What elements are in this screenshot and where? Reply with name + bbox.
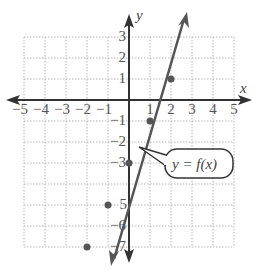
x-tick: 1: [146, 101, 154, 117]
y-tick: −3: [110, 154, 126, 170]
x-tick: 2: [167, 101, 175, 117]
x-tick: 4: [209, 101, 217, 117]
x-tick: 5: [230, 101, 238, 117]
x-axis-label: x: [239, 80, 247, 96]
data-point: [105, 202, 112, 209]
data-point: [126, 160, 133, 167]
x-tick: 3: [188, 101, 196, 117]
line-up-arrow-icon: [178, 12, 189, 28]
y-tick: 1: [119, 70, 127, 86]
y-tick: −1: [110, 112, 126, 128]
callout-label: y = f(x): [170, 156, 217, 173]
y-tick: 5: [120, 196, 128, 212]
data-point: [84, 244, 91, 251]
x-tick: −2: [75, 101, 91, 117]
function-line: [84, 12, 190, 266]
y-tick: 2: [119, 49, 127, 65]
x-tick: −5: [12, 101, 28, 117]
data-point: [168, 76, 175, 83]
y-tick: −2: [110, 133, 126, 149]
y-axis-label: y: [134, 7, 143, 23]
data-point: [147, 118, 154, 125]
x-tick: −4: [33, 101, 49, 117]
coordinate-plane: x y −5 −4 −3 −2 −1 1 2 3 4 5 3 2 1 −1 −2…: [0, 0, 262, 274]
y-tick: 3: [119, 28, 127, 44]
x-tick: −3: [54, 101, 70, 117]
